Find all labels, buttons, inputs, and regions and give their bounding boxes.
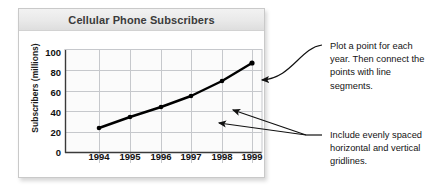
x-axis-ticks: 1994 1995 1996 1997 1998 1999 <box>19 151 266 169</box>
data-point-1994 <box>97 126 102 131</box>
plot-background <box>65 49 262 153</box>
data-point-1997 <box>189 94 194 99</box>
chart-plot-area: Subscribers (millions) 100 80 60 40 20 0 <box>19 31 266 179</box>
data-point-1996 <box>159 105 164 110</box>
x-tick-1999: 1999 <box>232 151 272 162</box>
data-point-1995 <box>128 115 133 120</box>
data-point-1998 <box>220 79 225 84</box>
chart-card: Cellular Phone Subscribers Subscribers (… <box>18 8 265 178</box>
arrow-to-data-line <box>262 45 322 80</box>
chart-title: Cellular Phone Subscribers <box>19 9 264 31</box>
annotation-plot-points: Plot a point for each year. Then connect… <box>330 40 426 93</box>
data-point-1999 <box>249 60 254 65</box>
annotation-gridlines: Include evenly spaced horizontal and ver… <box>330 129 426 169</box>
